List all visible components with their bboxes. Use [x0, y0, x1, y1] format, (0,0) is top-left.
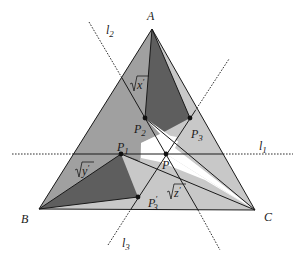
label-vertex-a: A — [146, 9, 155, 23]
triangle-diagram: A B C P P1 P2 P3 P′3 l1 l2 l3 x′ y′ z′ — [0, 0, 303, 264]
line-l3-top — [195, 59, 229, 111]
region-x-dark — [145, 29, 190, 134]
label-vertex-c: C — [264, 210, 273, 224]
line-l3-bottom — [108, 209, 131, 245]
label-line-l1: l1 — [259, 139, 267, 155]
label-point-p: P — [161, 158, 170, 172]
label-line-l3: l3 — [122, 236, 130, 252]
point-p — [164, 152, 169, 157]
diagram-canvas: A B C P P1 P2 P3 P′3 l1 l2 l3 x′ y′ z′ — [0, 0, 303, 264]
point-p3 — [188, 116, 193, 121]
line-l2-bottom — [198, 210, 220, 250]
label-vertex-b: B — [21, 212, 29, 226]
point-p3prime — [136, 195, 141, 200]
label-point-p3prime: P′3 — [147, 194, 158, 212]
label-line-l2: l2 — [106, 23, 114, 39]
point-p2 — [143, 116, 148, 121]
